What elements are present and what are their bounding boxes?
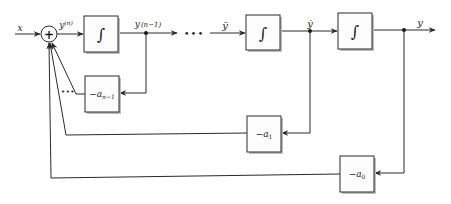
junction-yn1 [144,31,148,35]
yn-sup: (n) [64,19,73,26]
integrator-1: ∫ [84,16,120,54]
return-a1 [50,43,247,135]
minus-sign: − [89,89,97,99]
feedback-a0-tap [375,30,404,173]
integrator-2: ∫ [246,15,282,52]
diagram-canvas: + ••• ••• ∫ ∫ ∫ −an−1 −a1 −a0 [0,0,451,204]
gain-block-a0: −a0 [340,156,376,194]
input-label: x [17,23,22,33]
integral-icon: ∫ [351,22,359,41]
return-an1 [52,43,85,94]
integral-icon: ∫ [97,25,105,44]
main-ellipsis: ••• [184,28,205,39]
feedback-an1-tap [120,33,146,93]
feedback-a1-tap [282,31,310,133]
feedback-ellipsis: ••• [61,88,75,96]
gain-block-a1: −a1 [247,116,283,154]
plus-sign: + [44,28,54,42]
block-diagram: + ••• ••• ∫ ∫ ∫ −an−1 −a1 −a0 [0,0,451,204]
yddot-label: ÿ [221,20,228,31]
gain-block-an1: −an−1 [85,76,121,114]
yn1-sup: (n−1) [141,21,162,29]
coef-subscript: 0 [362,173,366,180]
coef-subscript: n−1 [102,93,115,100]
summing-junction: + [41,26,57,42]
junction-y [402,28,406,32]
integral-icon: ∫ [259,24,267,43]
yn-label: y(n) [58,19,73,30]
integrator-3: ∫ [338,13,374,51]
ydot-label: ẏ [306,18,313,29]
coef-subscript: 1 [269,133,273,140]
yn1-base: y [134,19,141,29]
minus-sign: − [256,129,264,139]
minus-sign: − [349,169,357,179]
yn1-label: y(n−1) [134,19,162,29]
junction-ydot [308,29,312,33]
output-label: y [416,17,423,28]
